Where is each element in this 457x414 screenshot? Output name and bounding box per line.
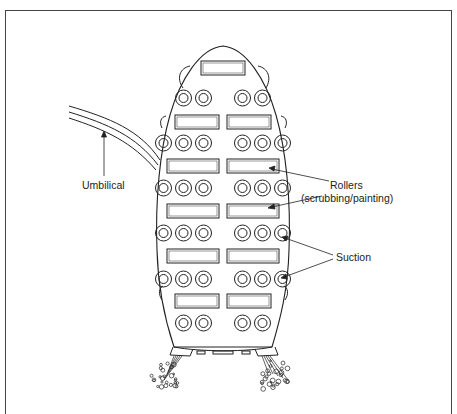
roller-pad-inner (229, 161, 277, 171)
suction-cup-inner (238, 94, 247, 103)
rollers-arrowhead (269, 166, 275, 171)
suction-cup (275, 271, 291, 287)
suction-cup (255, 225, 271, 241)
suction-cup-inner (159, 229, 168, 238)
bubble (165, 381, 168, 384)
suction-cup-inner (159, 184, 168, 193)
suction-cup-inner (199, 275, 208, 284)
suction-cup (235, 315, 251, 331)
suction-cup (156, 225, 172, 241)
suction-cup (196, 135, 212, 151)
bubble (261, 372, 265, 376)
suction-cup-inner (199, 139, 208, 148)
base-plate (174, 347, 272, 351)
robot-body (157, 46, 290, 347)
bubble (285, 366, 290, 371)
suction-cup (196, 271, 212, 287)
roller-pad-inner (229, 251, 277, 261)
bubble (270, 360, 272, 362)
suction-cup-inner (238, 184, 247, 193)
bubble (159, 385, 164, 390)
bubble (161, 381, 163, 383)
suction-cup (196, 90, 212, 106)
suction-cup (235, 90, 251, 106)
bubble (169, 374, 173, 378)
bubble (166, 362, 169, 365)
bubble (169, 383, 172, 386)
suction-arrowhead-upper (282, 236, 288, 241)
suction-cup (255, 271, 271, 287)
suction-cup-inner (179, 229, 188, 238)
bubble (157, 385, 159, 387)
suction-cup (255, 135, 271, 151)
suction-cup-inner (238, 139, 247, 148)
suction-cup-inner (179, 275, 188, 284)
roller-pad-inner (169, 161, 217, 171)
suction-cup (235, 225, 251, 241)
suction-cup-inner (199, 319, 208, 328)
suction-cup-inner (199, 94, 208, 103)
roller-pad-inner (177, 296, 217, 306)
ear-right-mid (281, 116, 286, 128)
suction-cup (255, 180, 271, 196)
suction-cup-inner (258, 94, 267, 103)
suction-leader-upper (285, 238, 333, 255)
suction-cup-inner (258, 184, 267, 193)
suction-cup (156, 271, 172, 287)
ear-left-mid (161, 116, 166, 128)
suction-cup-inner (278, 184, 287, 193)
base-tab (242, 351, 250, 354)
suction-cup (235, 180, 251, 196)
suction-cup-inner (179, 139, 188, 148)
suction-cup-inner (199, 184, 208, 193)
roller-pad-inner (169, 206, 217, 216)
suction-cup (196, 315, 212, 331)
suction-cup-inner (238, 229, 247, 238)
bubble (161, 368, 165, 372)
suction-cup-inner (258, 229, 267, 238)
suction-cup-inner (238, 319, 247, 328)
roller-pad-inner (169, 251, 217, 261)
base-tab (213, 351, 233, 354)
suction-cup-inner (199, 229, 208, 238)
suction-cup (176, 271, 192, 287)
suction-cup (235, 135, 251, 151)
roller-pad-inner (203, 63, 243, 73)
bubble (160, 363, 163, 366)
bubble (280, 367, 283, 370)
suction-cup (196, 180, 212, 196)
roller-pad-inner (177, 117, 217, 127)
suction-label: Suction (336, 251, 371, 263)
bubble (271, 385, 275, 389)
suction-cup (235, 271, 251, 287)
suction-cup (176, 180, 192, 196)
suction-cup (275, 225, 291, 241)
bubble (261, 387, 266, 392)
suction-cup-inner (258, 319, 267, 328)
bubble (150, 374, 153, 377)
base-tab (197, 351, 205, 354)
suction-cup (255, 315, 271, 331)
robot-diagram: Umbilical Rollers (scrubbing/painting) S… (0, 0, 457, 414)
suction-cup (176, 315, 192, 331)
bubble (270, 378, 275, 383)
suction-cup (176, 135, 192, 151)
suction-cup-inner (179, 184, 188, 193)
suction-cup-inner (179, 319, 188, 328)
rollers-label: Rollers (330, 179, 363, 191)
suction-cup-inner (258, 139, 267, 148)
suction-cup (176, 225, 192, 241)
umbilical-label: Umbilical (82, 179, 125, 191)
suction-cup (176, 90, 192, 106)
suction-leader-lower (284, 259, 333, 277)
roller-pad-inner (229, 296, 269, 306)
suction-cup-inner (258, 275, 267, 284)
water-jets (150, 356, 290, 391)
rollers-arrowhead-2 (268, 204, 275, 209)
suction-cup-inner (179, 94, 188, 103)
bubble (164, 384, 168, 388)
bubble (281, 361, 285, 365)
bubble (267, 372, 271, 376)
suction-cup-inner (238, 275, 247, 284)
umbilical-cable (69, 106, 160, 170)
